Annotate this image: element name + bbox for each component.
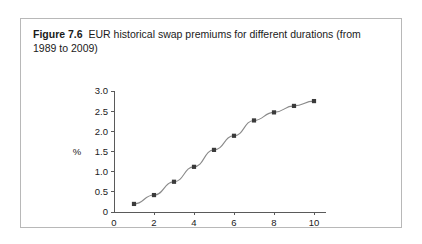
x-tick-label: 6 bbox=[231, 217, 236, 228]
figure-label: Figure 7.6 bbox=[33, 28, 83, 40]
x-tick-label: 4 bbox=[191, 217, 196, 228]
data-point bbox=[192, 165, 196, 169]
data-point bbox=[252, 118, 256, 122]
x-tick-label: 0 bbox=[111, 217, 116, 228]
y-tick-label: 3.0 bbox=[95, 85, 108, 96]
y-tick-label: 0 bbox=[103, 206, 108, 217]
data-point bbox=[272, 110, 276, 114]
data-point bbox=[232, 134, 236, 138]
data-point bbox=[132, 202, 136, 206]
chart-axes bbox=[114, 91, 326, 212]
chart-plot-area: 00.51.01.52.02.53.0 0246810 % Duration (… bbox=[21, 55, 403, 229]
figure-caption: Figure 7.6 EUR historical swap premiums … bbox=[33, 27, 385, 55]
x-tick-label: 2 bbox=[151, 217, 156, 228]
swap-premium-line-chart: 00.51.01.52.02.53.0 0246810 % Duration (… bbox=[21, 55, 403, 229]
y-tick-label: 2.5 bbox=[95, 106, 108, 117]
data-point bbox=[212, 148, 216, 152]
series-line bbox=[134, 101, 314, 204]
x-axis-tick-labels: 0246810 bbox=[111, 217, 319, 228]
data-point bbox=[292, 104, 296, 108]
data-point bbox=[152, 193, 156, 197]
x-tick-label: 8 bbox=[271, 217, 276, 228]
x-tick-label: 10 bbox=[309, 217, 320, 228]
y-tick-label: 1.5 bbox=[95, 146, 108, 157]
y-tick-label: 0.5 bbox=[95, 186, 108, 197]
y-tick-label: 2.0 bbox=[95, 126, 108, 137]
data-point bbox=[172, 180, 176, 184]
data-point bbox=[312, 99, 316, 103]
series-markers bbox=[132, 99, 316, 206]
y-axis-tick-labels: 00.51.01.52.02.53.0 bbox=[95, 85, 108, 217]
y-axis-title: % bbox=[73, 146, 82, 157]
y-tick-label: 1.0 bbox=[95, 166, 108, 177]
figure-container: Figure 7.6 EUR historical swap premiums … bbox=[20, 18, 402, 228]
